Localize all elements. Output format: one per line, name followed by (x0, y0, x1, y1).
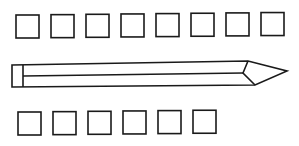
unit-square (261, 13, 284, 36)
unit-square (193, 110, 216, 133)
unit-square (53, 112, 76, 135)
unit-square (158, 111, 181, 134)
diagram-canvas (0, 0, 299, 146)
pencil-sharpened-edge (243, 61, 255, 85)
unit-square (121, 14, 144, 37)
pencil-body-midline (23, 73, 243, 76)
unit-square (123, 111, 146, 134)
unit-square (86, 14, 109, 37)
unit-square (51, 15, 74, 38)
unit-square (88, 111, 111, 134)
top-row-squares (16, 13, 284, 38)
pencil (12, 61, 287, 87)
unit-square (156, 14, 179, 37)
unit-square (16, 15, 39, 38)
bottom-row-squares (18, 110, 216, 135)
unit-square (191, 13, 214, 36)
unit-square (18, 112, 41, 135)
unit-square (226, 13, 249, 36)
